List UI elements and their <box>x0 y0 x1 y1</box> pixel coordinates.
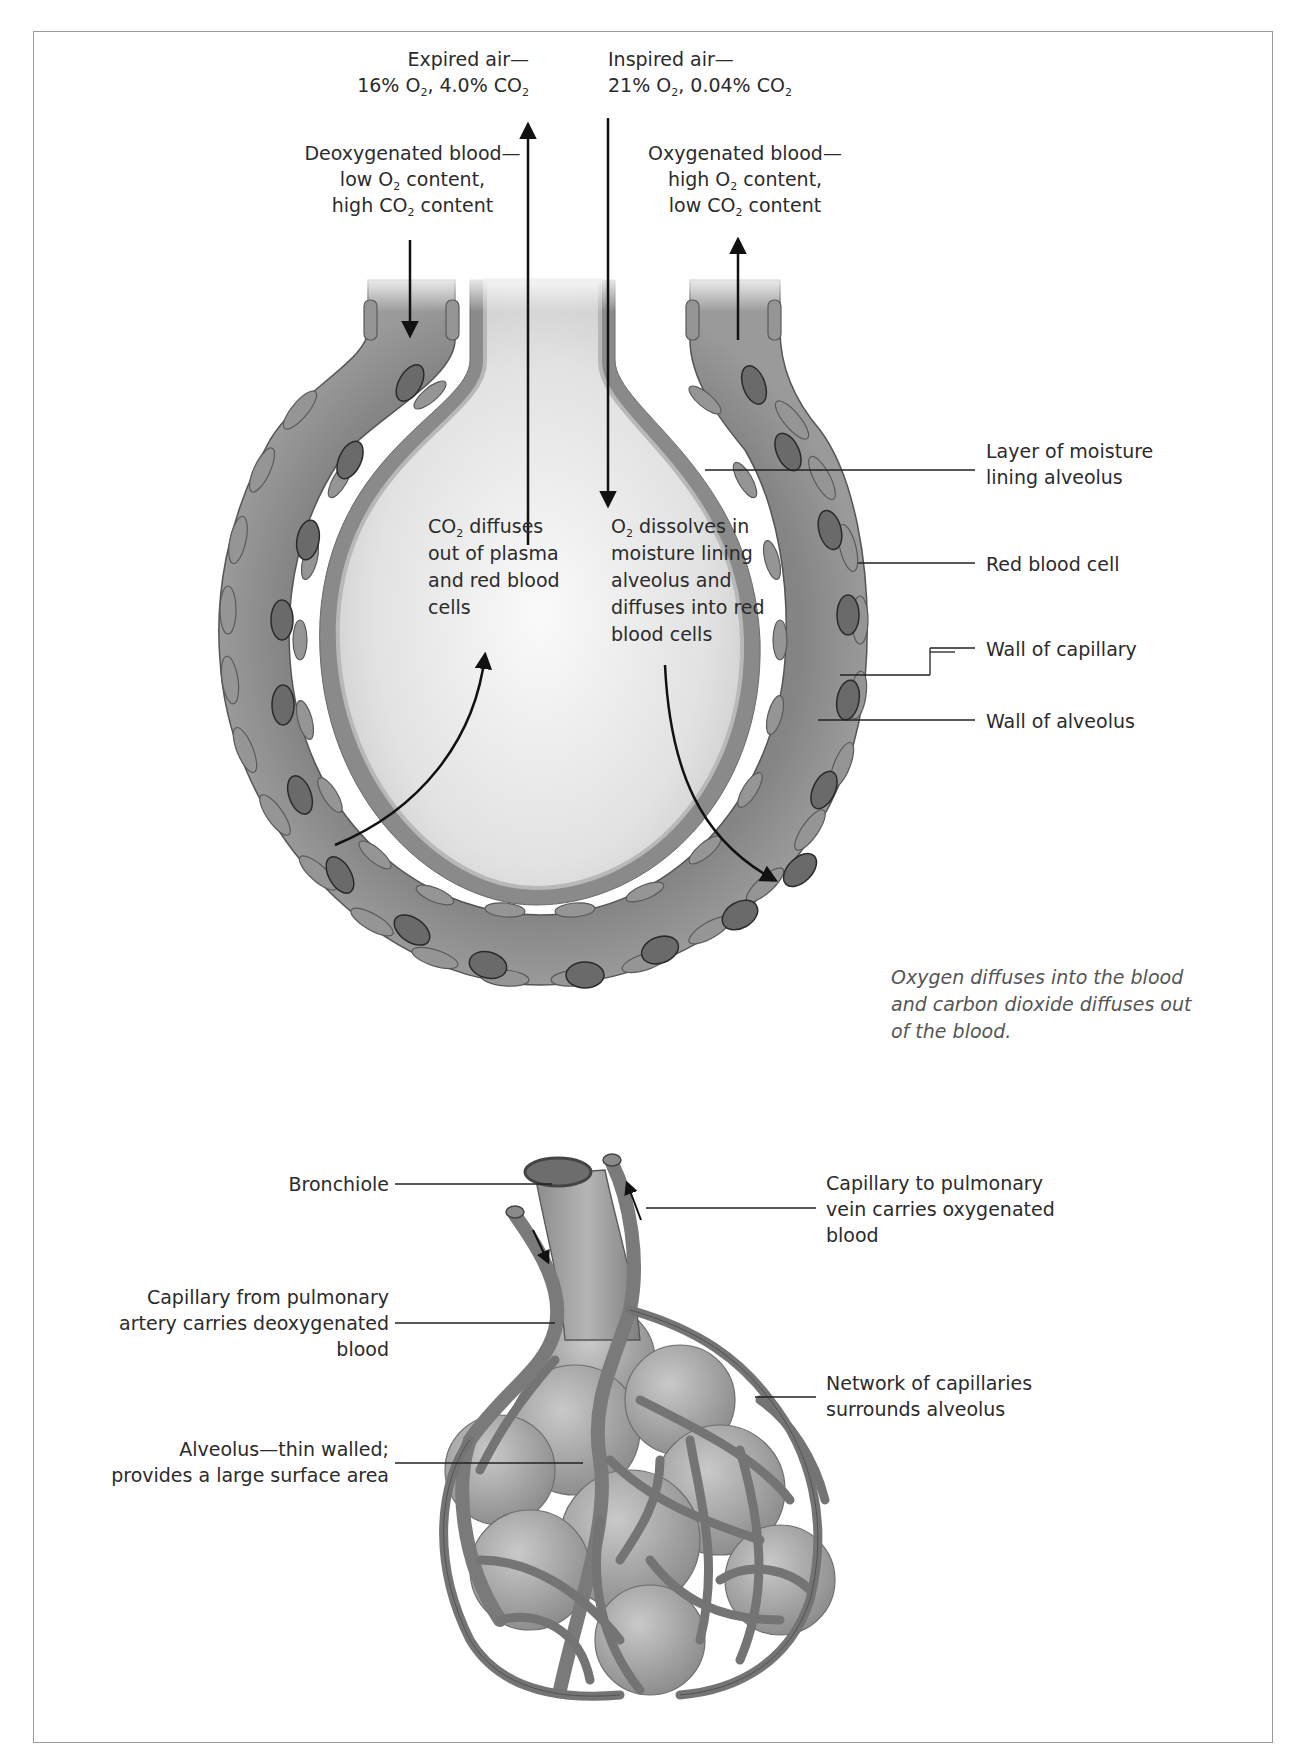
alveolar-cluster <box>395 1154 835 1696</box>
label-moisture-layer: Layer of moisture lining alveolus <box>986 438 1153 490</box>
label-alveolus-thin-walled: Alveolus—thin walled; provides a large s… <box>111 1436 389 1488</box>
label-capillary-from-artery: Capillary from pulmonary artery carries … <box>119 1284 389 1362</box>
label-red-blood-cell: Red blood cell <box>986 551 1120 577</box>
label-inspired-air: Inspired air— 21% O2, 0.04% CO2 <box>608 46 792 98</box>
label-wall-of-capillary: Wall of capillary <box>986 636 1137 662</box>
figure-caption: Oxygen diffuses into the blood and carbo… <box>891 964 1191 1045</box>
label-capillary-network: Network of capillaries surrounds alveolu… <box>826 1370 1032 1422</box>
label-expired-air: Expired air— 16% O2, 4.0% CO2 <box>357 46 529 98</box>
label-deoxygenated-blood: Deoxygenated blood— low O2 content, high… <box>300 140 525 218</box>
bronchiole-opening <box>525 1158 591 1186</box>
label-capillary-to-vein: Capillary to pulmonary vein carries oxyg… <box>826 1170 1055 1248</box>
label-oxygenated-blood: Oxygenated blood— high O2 content, low C… <box>640 140 850 218</box>
label-o2-dissolves: O2 dissolves in moisture lining alveolus… <box>611 513 765 648</box>
label-wall-of-alveolus: Wall of alveolus <box>986 708 1135 734</box>
alveolus-diagram-art <box>0 0 1305 1763</box>
label-co2-diffuses: CO2 diffuses out of plasma and red blood… <box>428 513 560 621</box>
alveolar-sacs <box>445 1305 835 1695</box>
alveolus-cross-section <box>219 118 975 988</box>
label-bronchiole: Bronchiole <box>289 1171 389 1197</box>
